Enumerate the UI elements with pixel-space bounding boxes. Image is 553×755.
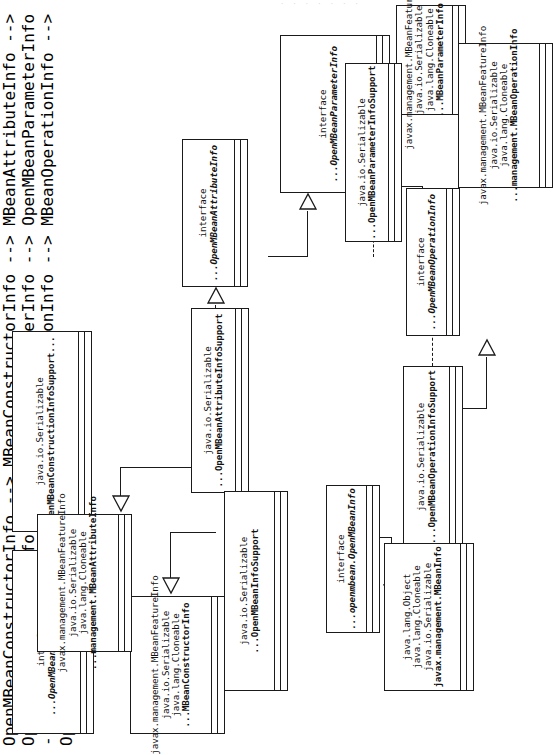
class-box-mbean-parameter-info[interactable]: javax.management.MBeanFeatureInfo java.i… <box>396 5 466 115</box>
class-name: OpenMBeanConstructionInfoSupport... <box>46 336 56 526</box>
class-header-open-mbean-operation-info-support: java.io.Serializable ...OpenMBeanOperati… <box>404 367 450 547</box>
class-operations-compartment <box>453 189 459 335</box>
class-header-open-mbean-attribute-info: interface ...OpenMBeanAttributeInfo <box>183 140 235 286</box>
class-header-open-mbean-operation-info: interface ...OpenMBeanOperationInfo <box>407 189 447 335</box>
class-name: ...OpenMBeanAttributeInfo <box>209 145 219 281</box>
class-box-mbean-info[interactable]: java.lang.Object java.lang.Cloneable jav… <box>384 543 474 691</box>
class-operations-compartment <box>546 44 552 187</box>
class-box-open-mbean-operation-info[interactable]: interface ...OpenMBeanOperationInfo <box>406 188 460 336</box>
generalization-line-v-attr-iface-to-param-iface <box>268 256 308 257</box>
class-header-open-mbean-info: interface ...openmbean.OpenMBeanInfo <box>327 486 367 632</box>
class-header-open-mbean-construction-info-support: java.io.Serializable OpenMBeanConstructi… <box>13 332 79 531</box>
class-header-mbean-operation-info: javax.management.MBeanFeatureInfo java.i… <box>459 44 540 187</box>
class-box-open-mbean-parameter-info-support[interactable]: java.io.Serializable ...OpenMBeanParamet… <box>345 63 402 242</box>
class-supertype-1: java.lang.Cloneable <box>412 565 422 668</box>
class-header-open-mbean-parameter-info-support: java.io.Serializable ...OpenMBeanParamet… <box>346 64 389 241</box>
class-supertype-1: java.io.Serializable <box>414 6 424 115</box>
class-supertype-0: java.io.Serializable <box>203 346 213 455</box>
class-name: ...MBeanParameterInfo <box>435 3 445 117</box>
realization-arrowhead-open-mbean-attribute-info <box>206 285 226 305</box>
generalization-line-h-attribute <box>120 467 121 496</box>
class-name: ...openmbean.OpenMBeanInfo <box>347 488 357 629</box>
class-operations-compartment <box>242 309 248 492</box>
class-operations-compartment <box>395 64 401 241</box>
class-operations-compartment <box>281 492 287 690</box>
class-supertype-0: java.io.Serializable <box>35 377 45 486</box>
generalization-arrowhead-mbean-attribute-info <box>111 494 131 514</box>
class-box-open-mbean-construction-info-support[interactable]: java.io.Serializable OpenMBeanConstructi… <box>12 331 92 532</box>
class-stereotype: interface <box>198 189 208 238</box>
class-box-mbean-operation-info[interactable]: javax.management.MBeanFeatureInfo java.i… <box>458 43 553 188</box>
class-stereotype: interface <box>336 535 346 584</box>
class-name: ...management.MBeanAttributeInfo <box>88 496 98 670</box>
generalization-line-h-attr-iface-to-param-iface <box>307 211 308 257</box>
class-stereotype: interface <box>416 238 426 287</box>
generalization-arrowhead-mbean-operation-info <box>477 337 497 357</box>
class-name: ...OpenMBeanInfoSupport <box>250 529 260 654</box>
class-name: ...OpenMBeanParameterInfo <box>329 46 339 182</box>
class-box-open-mbean-attribute-info[interactable]: interface ...OpenMBeanAttributeInfo <box>182 139 248 287</box>
class-name: ...OpenMBeanOperationInfo <box>427 194 437 330</box>
class-header-open-mbean-info-support: java.io.Serializable ...OpenMBeanInfoSup… <box>225 492 275 690</box>
class-name: ...OpenMBeanParameterInfoSupport <box>367 66 377 240</box>
generalization-line-h-operation <box>486 357 487 409</box>
class-header-mbean-parameter-info: javax.management.MBeanFeatureInfo java.i… <box>397 6 453 114</box>
class-header-open-mbean-attribute-info-support: java.io.Serializable ...OpenMBeanAttribu… <box>192 309 236 492</box>
class-header-mbean-info: java.lang.Object java.lang.Cloneable jav… <box>385 544 461 690</box>
class-box-mbean-attribute-info[interactable]: javax.management.MBeanFeatureInfo java.i… <box>37 514 132 652</box>
class-header-mbean-attribute-info: javax.management.MBeanFeatureInfo java.i… <box>38 515 119 651</box>
generalization-arrowhead-mbean-constructor-info <box>161 576 181 596</box>
class-box-open-mbean-operation-info-support[interactable]: java.io.Serializable ...OpenMBeanOperati… <box>403 366 463 548</box>
class-name: ...MBeanConstructorInfo <box>181 603 191 728</box>
class-box-open-mbean-info[interactable]: interface ...openmbean.OpenMBeanInfo <box>326 485 380 633</box>
class-operations-compartment <box>373 486 379 632</box>
class-box-open-mbean-info-support[interactable]: java.io.Serializable ...OpenMBeanInfoSup… <box>224 491 288 691</box>
class-header-mbean-constructor-info: javax.management.MBeanFeatureInfo java.i… <box>131 597 212 733</box>
class-name: ...OpenMBeanAttributeInfoSupport <box>214 314 224 488</box>
class-operations-compartment <box>456 367 462 547</box>
class-supertype-0: java.io.Serializable <box>239 537 249 646</box>
class-operations-compartment <box>241 140 247 286</box>
class-operations-compartment <box>467 544 473 690</box>
class-name: ...OpenMBeanOperationInfoSupport <box>427 370 437 544</box>
generalization-line-h-construction <box>170 532 171 578</box>
class-supertype-0: java.io.Serializable <box>416 403 426 512</box>
class-box-mbean-constructor-info[interactable]: javax.management.MBeanFeatureInfo java.i… <box>130 596 225 734</box>
class-name: ...management.MBeanOperationInfo <box>509 29 519 203</box>
class-name: javax.management.MBeanInfo <box>433 546 443 687</box>
generalization-line-v-construction <box>170 532 216 533</box>
class-operations-compartment <box>125 515 131 651</box>
generalization-arrowhead-open-mbean-parameter-info-a <box>298 191 318 211</box>
class-stereotype: interface <box>318 90 328 139</box>
class-box-open-mbean-attribute-info-support[interactable]: java.io.Serializable ...OpenMBeanAttribu… <box>191 308 249 493</box>
